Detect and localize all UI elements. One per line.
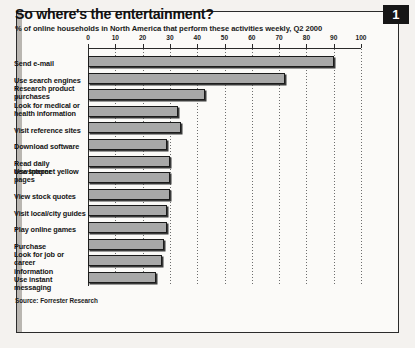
x-tick-label: 80	[303, 34, 310, 41]
gridline	[225, 49, 226, 286]
chart-title: So where's the entertainment?	[15, 6, 214, 22]
bar	[88, 156, 170, 167]
bar	[88, 222, 167, 233]
gridline	[306, 49, 307, 286]
x-tick-mark	[143, 44, 144, 48]
gridline	[197, 49, 198, 286]
category-label: Use instant messaging	[14, 276, 86, 293]
plot-area: 0102030405060708090100	[88, 48, 361, 286]
bar	[88, 73, 285, 84]
bar	[88, 89, 205, 100]
x-tick-label: 10	[112, 34, 119, 41]
bar	[88, 139, 167, 150]
x-tick-label: 0	[86, 34, 90, 41]
x-tick-label: 60	[248, 34, 255, 41]
gridline	[115, 49, 116, 286]
gridline	[143, 49, 144, 286]
category-label: Send e-mail	[14, 60, 86, 68]
chart-subtitle: % of online households in North America …	[15, 24, 322, 33]
category-label-column: Send e-mailUse search enginesResearch pr…	[14, 48, 86, 286]
category-label: Look for job or careerinformation	[14, 251, 86, 276]
axis-baseline	[88, 49, 89, 286]
category-label: Use Internet yellowpages	[14, 168, 86, 185]
x-tick-mark	[361, 44, 362, 48]
source-note: Source: Forrester Research	[15, 297, 98, 304]
category-label: Look for medical orhealth information	[14, 102, 86, 119]
bar	[88, 239, 164, 250]
gridline	[170, 49, 171, 286]
x-tick-label: 20	[139, 34, 146, 41]
x-tick-label: 30	[166, 34, 173, 41]
bar	[88, 172, 170, 183]
category-label: View stock quotes	[14, 193, 86, 201]
x-tick-mark	[170, 44, 171, 48]
x-tick-mark	[306, 44, 307, 48]
x-tick-label: 70	[275, 34, 282, 41]
gridline	[361, 49, 362, 286]
x-tick-label: 90	[330, 34, 337, 41]
bar	[88, 255, 162, 266]
x-tick-mark	[279, 44, 280, 48]
category-label: Visit local/city guides	[14, 210, 86, 218]
x-tick-label: 40	[194, 34, 201, 41]
bar	[88, 205, 167, 216]
figure-number-badge: 1	[383, 5, 409, 24]
bar	[88, 122, 181, 133]
bar	[88, 106, 178, 117]
x-tick-label: 50	[221, 34, 228, 41]
x-tick-mark	[252, 44, 253, 48]
category-label: Download software	[14, 143, 86, 151]
category-label: Play online games	[14, 226, 86, 234]
gridline	[252, 49, 253, 286]
x-tick-mark	[88, 44, 89, 48]
gridline	[334, 49, 335, 286]
bar	[88, 272, 156, 283]
figure-page: 1 So where's the entertainment? % of onl…	[0, 0, 415, 348]
x-tick-mark	[225, 44, 226, 48]
bar	[88, 189, 170, 200]
x-tick-mark	[334, 44, 335, 48]
bar	[88, 56, 334, 67]
category-label: Research productpurchases	[14, 85, 86, 102]
gridline	[279, 49, 280, 286]
x-tick-label: 100	[355, 34, 366, 41]
category-label: Visit reference sites	[14, 127, 86, 135]
x-tick-mark	[197, 44, 198, 48]
x-tick-mark	[115, 44, 116, 48]
